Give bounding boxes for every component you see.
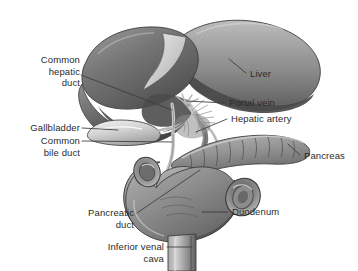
inferior-venal-cava-structure <box>168 234 196 271</box>
label-common-hepatic-duct: Common hepatic duct <box>8 54 80 89</box>
label-hepatic-artery: Hepatic artery <box>231 113 292 125</box>
label-portal-vein: Portal vein <box>229 97 275 109</box>
inferior-venal-cava-organ <box>168 234 196 271</box>
label-common-bile-duct: Common bile duct <box>4 135 80 158</box>
anatomy-figure: Common hepatic duct Gallbladder Common b… <box>0 0 358 271</box>
label-duodenum: Duodenum <box>232 206 279 218</box>
hilar-plate <box>175 114 210 138</box>
label-inferior-venal-cava: Inferior venal cava <box>88 241 164 264</box>
label-pancreas: Pancreas <box>304 150 345 162</box>
label-pancreatic-duct: Pancreatic duct <box>58 207 134 230</box>
duodenum-organ <box>124 154 266 243</box>
label-gallbladder: Gallbladder <box>0 122 80 134</box>
label-liver: Liver <box>250 68 271 80</box>
